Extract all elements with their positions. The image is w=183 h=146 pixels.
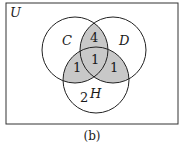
set-h-label: H	[89, 86, 102, 101]
region-c-d-h-value: 1	[91, 52, 99, 67]
region-h-only-value: 2	[80, 90, 88, 105]
region-c-h-value: 1	[73, 60, 81, 75]
venn-diagram: U C D H 4 1 1 1 2 (b)	[0, 0, 183, 146]
region-c-d-value: 4	[90, 30, 98, 45]
region-d-h-value: 1	[110, 60, 118, 75]
set-d-label: D	[118, 33, 130, 48]
set-c-label: C	[62, 33, 72, 48]
figure-caption: (b)	[83, 129, 100, 143]
universe-label: U	[10, 5, 22, 20]
